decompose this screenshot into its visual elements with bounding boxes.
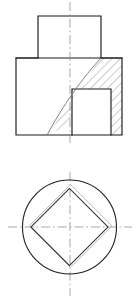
upper-boss-outline <box>38 16 101 58</box>
technical-drawing-canvas: Orthographic engineering drawing Two-vie… <box>0 0 137 304</box>
front-view-half-section <box>16 2 130 145</box>
inner-cavity-outline <box>72 89 111 135</box>
square-opening-outer-edge <box>29 185 112 268</box>
bottom-view <box>8 172 132 296</box>
drawing-svg <box>0 0 137 304</box>
section-hatch <box>40 50 130 145</box>
